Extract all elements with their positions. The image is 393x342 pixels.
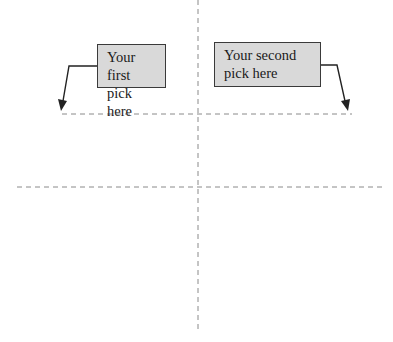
- second-pick-arrow: [320, 65, 345, 101]
- first-pick-line-2: pick here: [107, 84, 159, 120]
- first-pick-callout: Your first pick here: [97, 44, 166, 88]
- diagram-canvas: [0, 0, 393, 342]
- first-pick-arrow: [63, 66, 97, 101]
- first-pick-line-1: Your first: [107, 48, 159, 84]
- second-pick-arrowhead-icon: [341, 99, 350, 111]
- second-pick-callout: Your second pick here: [214, 42, 321, 87]
- second-pick-line-2: pick here: [224, 64, 314, 82]
- first-pick-arrowhead-icon: [58, 99, 67, 111]
- second-pick-line-1: Your second: [224, 46, 314, 64]
